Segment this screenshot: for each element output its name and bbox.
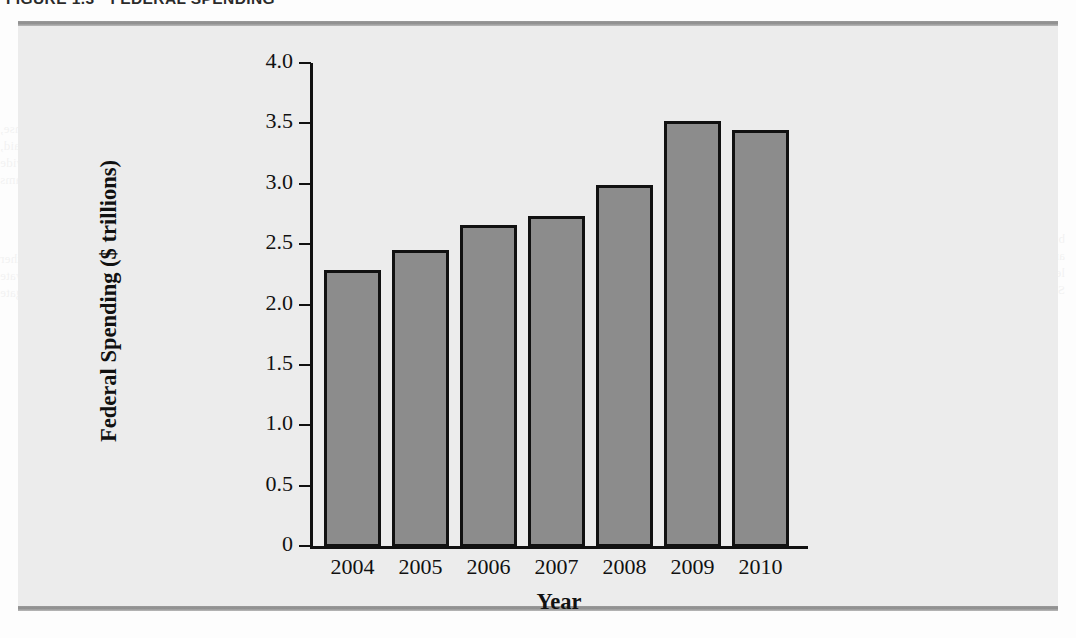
y-axis-tick-label: 1.0 [223, 410, 293, 436]
y-axis-tick-label: 3.5 [223, 108, 293, 134]
figure-number: FIGURE 1.3 [6, 0, 94, 7]
y-axis-tick [299, 424, 311, 426]
y-axis-tick-label: 4.0 [223, 48, 293, 74]
y-axis-tick-label: 0.5 [223, 471, 293, 497]
x-axis-tick-label: 2010 [715, 554, 807, 580]
y-axis-tick [299, 485, 311, 487]
y-axis-tick-label: 2.0 [223, 290, 293, 316]
figure-caption: FIGURE 1.3FEDERAL SPENDING [6, 0, 275, 8]
y-axis-tick [299, 364, 311, 366]
y-axis-title: Federal Spending ($ trillions) [96, 91, 122, 511]
x-axis-title: Year [310, 589, 808, 615]
bar [528, 216, 585, 547]
y-axis-tick-label: 1.5 [223, 350, 293, 376]
bar [596, 185, 653, 547]
figure-title: FEDERAL SPENDING [110, 0, 275, 7]
figure-page: the federal government of the United Sta… [0, 0, 1076, 638]
y-axis-tick-label: 0 [223, 531, 293, 557]
y-axis-tick [299, 183, 311, 185]
y-axis-tick-label: 3.0 [223, 169, 293, 195]
bar [732, 130, 789, 547]
y-axis-tick [299, 545, 311, 547]
bar [392, 250, 449, 547]
y-axis-tick-label: 2.5 [223, 229, 293, 255]
y-axis-tick [299, 304, 311, 306]
bar [664, 121, 721, 547]
chart-plate: Federal Spending ($ trillions) 00.51.01.… [18, 26, 1058, 606]
bar-series [313, 63, 808, 547]
bar [324, 270, 381, 547]
y-axis-tick [299, 243, 311, 245]
y-axis-tick [299, 122, 311, 124]
y-axis-tick [299, 62, 311, 64]
bar [460, 225, 517, 547]
